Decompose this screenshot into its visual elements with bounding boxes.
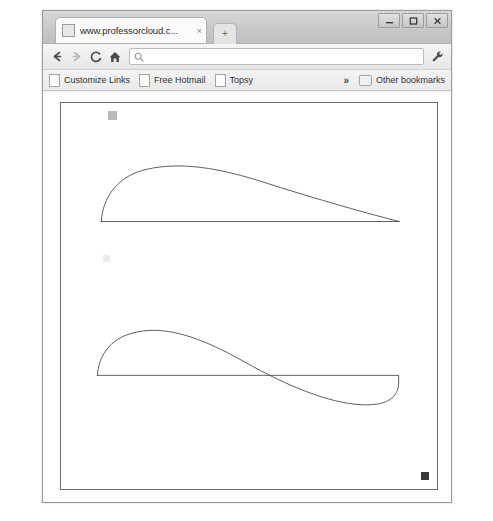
page-icon — [49, 74, 60, 87]
screenshot-root: www.professorcloud.c... × + — [0, 0, 493, 521]
close-button[interactable] — [426, 13, 448, 28]
bookmark-free-hotmail[interactable]: Free Hotmail — [139, 74, 206, 87]
bookmark-customize-links[interactable]: Customize Links — [49, 74, 130, 87]
tab-favicon-icon — [62, 24, 75, 37]
new-tab-plus-icon: + — [222, 29, 228, 39]
bookmarks-bar: Customize Links Free Hotmail Topsy » Oth… — [43, 70, 451, 91]
wrench-icon[interactable] — [428, 48, 446, 66]
address-bar[interactable] — [129, 48, 424, 65]
bookmark-topsy[interactable]: Topsy — [215, 74, 254, 87]
bookmark-label: Free Hotmail — [154, 75, 206, 85]
bookmark-label: Other bookmarks — [376, 75, 445, 85]
new-tab-button[interactable]: + — [213, 23, 237, 44]
home-icon[interactable] — [105, 47, 124, 66]
airfoil-diagram — [61, 103, 437, 489]
bookmarks-overflow-icon[interactable]: » — [343, 75, 349, 86]
maximize-button[interactable] — [402, 13, 424, 28]
back-button[interactable] — [48, 47, 67, 66]
forward-button[interactable] — [67, 47, 86, 66]
marker-top-left — [108, 111, 117, 120]
tab-title: www.professorcloud.c... — [80, 25, 194, 36]
airfoil-upper-path — [101, 166, 399, 222]
marker-bottom-right — [421, 472, 429, 480]
folder-icon — [359, 75, 372, 86]
airfoil-reflexed-path — [97, 330, 398, 405]
minimize-button[interactable] — [378, 13, 400, 28]
browser-window: www.professorcloud.c... × + — [42, 10, 452, 503]
window-controls — [378, 13, 448, 28]
page-icon — [215, 74, 226, 87]
browser-tab[interactable]: www.professorcloud.c... × — [55, 17, 207, 43]
search-icon — [134, 52, 144, 62]
tab-close-icon[interactable]: × — [194, 26, 202, 36]
browser-toolbar — [43, 44, 451, 70]
marker-middle-left — [103, 255, 110, 262]
page-icon — [139, 74, 150, 87]
title-bar[interactable]: www.professorcloud.c... × + — [43, 11, 451, 44]
reload-button[interactable] — [86, 47, 105, 66]
bookmark-other-bookmarks[interactable]: Other bookmarks — [359, 75, 445, 86]
bookmark-label: Topsy — [230, 75, 254, 85]
airfoil-canvas — [60, 102, 438, 490]
page-viewport — [43, 92, 451, 502]
bookmark-label: Customize Links — [64, 75, 130, 85]
